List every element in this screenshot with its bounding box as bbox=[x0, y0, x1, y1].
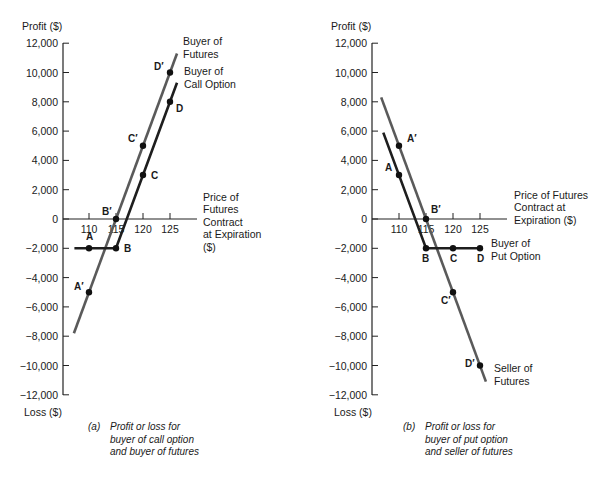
data-point-label: B′ bbox=[431, 204, 441, 215]
data-point bbox=[167, 99, 173, 105]
data-point-label: C bbox=[450, 253, 457, 264]
series-label: Buyer of bbox=[184, 65, 223, 77]
data-point bbox=[140, 172, 146, 178]
y-tick-label: 6,000 bbox=[341, 125, 367, 137]
caption-text: Profit or loss for bbox=[110, 421, 181, 432]
y-tick-label: −8,000 bbox=[335, 330, 368, 342]
y-tick-label: −6,000 bbox=[335, 301, 368, 313]
caption-text: buyer of call option bbox=[110, 434, 194, 445]
y-tick-label: −10,000 bbox=[329, 360, 367, 372]
panel-b-put-vs-futures-seller: 12,00010,0008,0006,0004,0002,0000−2,000−… bbox=[329, 20, 588, 457]
data-point-label: B bbox=[124, 243, 131, 254]
y-tick-label: 2,000 bbox=[32, 184, 58, 196]
data-point bbox=[167, 69, 173, 75]
data-point bbox=[450, 289, 456, 295]
data-point bbox=[423, 245, 429, 251]
data-point-label: C′ bbox=[128, 133, 138, 144]
x-tick-label: 110 bbox=[391, 223, 408, 235]
y-tick-label: 12,000 bbox=[26, 37, 58, 49]
y-tick-label: 10,000 bbox=[26, 67, 58, 79]
data-point-label: C′ bbox=[441, 295, 451, 306]
x-tick-label: 125 bbox=[161, 223, 179, 235]
data-point bbox=[396, 172, 402, 178]
data-point-label: C bbox=[151, 170, 158, 181]
y-tick-label: 4,000 bbox=[32, 154, 58, 166]
y-axis-title-loss: Loss ($) bbox=[24, 406, 62, 418]
data-point-label: B bbox=[422, 253, 429, 264]
series-label: Seller of bbox=[494, 362, 533, 374]
y-tick-label: 4,000 bbox=[341, 154, 367, 166]
data-point-label: B′ bbox=[102, 206, 112, 217]
data-point bbox=[86, 245, 92, 251]
y-tick-label: −4,000 bbox=[335, 272, 368, 284]
x-tick-label: 125 bbox=[471, 223, 489, 235]
data-point bbox=[86, 289, 92, 295]
data-point bbox=[396, 143, 402, 149]
y-axis-title-loss: Loss ($) bbox=[334, 406, 372, 418]
x-axis-title: Futures bbox=[203, 203, 239, 215]
x-axis-title: Contract at bbox=[514, 201, 565, 213]
x-axis-title: at Expiration bbox=[203, 228, 262, 240]
y-tick-label: 0 bbox=[361, 213, 367, 225]
data-point-label: A bbox=[86, 231, 93, 242]
caption-text: Profit or loss for bbox=[425, 421, 496, 432]
y-axis-title-profit: Profit ($) bbox=[22, 20, 62, 32]
series-label: Futures bbox=[494, 375, 530, 387]
series-label: Put Option bbox=[491, 250, 541, 262]
data-point bbox=[113, 216, 119, 222]
series-line-seller-of-futures bbox=[381, 97, 486, 381]
caption-text: and seller of futures bbox=[425, 446, 513, 457]
y-tick-label: 0 bbox=[52, 213, 58, 225]
data-point-label: D′ bbox=[154, 61, 164, 72]
data-point bbox=[477, 362, 483, 368]
data-point bbox=[423, 216, 429, 222]
x-axis-title: Expiration ($) bbox=[514, 214, 576, 226]
y-tick-label: 10,000 bbox=[335, 67, 367, 79]
y-tick-label: −6,000 bbox=[26, 301, 59, 313]
x-axis-title: Price of bbox=[203, 191, 239, 203]
y-axis-title-profit: Profit ($) bbox=[331, 20, 371, 32]
data-point bbox=[477, 245, 483, 251]
y-tick-label: −12,000 bbox=[329, 389, 367, 401]
y-tick-label: 8,000 bbox=[32, 96, 58, 108]
series-label: Futures bbox=[183, 48, 219, 60]
data-point-label: A′ bbox=[407, 133, 417, 144]
y-tick-label: −8,000 bbox=[26, 330, 59, 342]
caption-letter: (b) bbox=[403, 421, 415, 432]
data-point-label: D bbox=[477, 253, 484, 264]
panel-a-call-vs-futures-buyer: 12,00010,0008,0006,0004,0002,0000−2,000−… bbox=[20, 20, 262, 457]
series-label: Buyer of bbox=[183, 35, 222, 47]
data-point-label: D′ bbox=[465, 358, 475, 369]
data-point-label: D bbox=[176, 103, 183, 114]
x-axis-title: ($) bbox=[203, 241, 216, 253]
y-tick-label: −10,000 bbox=[20, 360, 58, 372]
y-tick-label: −4,000 bbox=[26, 272, 59, 284]
series-label: Buyer of bbox=[491, 237, 530, 249]
y-tick-label: −2,000 bbox=[335, 242, 368, 254]
data-point-label: A′ bbox=[74, 281, 84, 292]
y-tick-label: 6,000 bbox=[32, 125, 58, 137]
caption-text: and buyer of futures bbox=[110, 446, 199, 457]
data-point bbox=[140, 143, 146, 149]
x-axis-title: Contract bbox=[203, 216, 243, 228]
x-tick-label: 120 bbox=[134, 223, 152, 235]
y-tick-label: 8,000 bbox=[341, 96, 367, 108]
x-tick-label: 120 bbox=[444, 223, 462, 235]
data-point bbox=[113, 245, 119, 251]
y-tick-label: −12,000 bbox=[20, 389, 58, 401]
y-tick-label: 2,000 bbox=[341, 184, 367, 196]
caption-letter: (a) bbox=[88, 421, 100, 432]
series-label: Call Option bbox=[184, 78, 236, 90]
caption-text: buyer of put option bbox=[425, 434, 508, 445]
data-point-label: A bbox=[385, 162, 392, 173]
y-tick-label: 12,000 bbox=[335, 37, 367, 49]
x-axis-title: Price of Futures bbox=[514, 189, 588, 201]
y-tick-label: −2,000 bbox=[26, 242, 59, 254]
data-point bbox=[450, 245, 456, 251]
options-futures-profit-figure: 12,00010,0008,0006,0004,0002,0000−2,000−… bbox=[0, 0, 608, 478]
